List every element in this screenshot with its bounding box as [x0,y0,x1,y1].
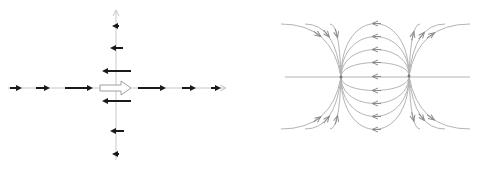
field-arrow-icon [372,127,381,132]
outer-field-line-left-top [305,24,341,77]
outer-field-line-left-top [281,24,341,77]
outer-field-line-right-bottom [409,76,470,129]
outer-field-arrow-icon [417,112,427,122]
outer-field-arrow-icon [417,31,427,41]
outer-field-line-right-top [409,24,470,76]
outer-field-arrow-icon [333,28,340,38]
charge-right-icon [408,75,411,78]
field-arrow-icon [372,47,381,52]
figure [0,0,478,169]
field-arrow-icon [372,88,381,93]
outer-field-line-right-bottom [409,76,445,129]
outer-field-arrow-icon [409,112,416,122]
dipole-field-lines-diagram [0,0,478,169]
outer-field-arrow-icon [409,31,416,41]
outer-field-arrow-icon [333,115,340,125]
field-arrow-icon [372,60,381,65]
outer-field-line-left-bottom [281,77,341,129]
field-arrow-icon [372,34,381,39]
charge-left-icon [340,76,343,79]
outer-field-line-left-bottom [305,77,341,129]
field-arrow-icon [372,101,381,106]
axis-field-arrow-icon [372,74,381,79]
field-arrow-icon [372,21,381,26]
field-arrow-icon [372,114,381,119]
